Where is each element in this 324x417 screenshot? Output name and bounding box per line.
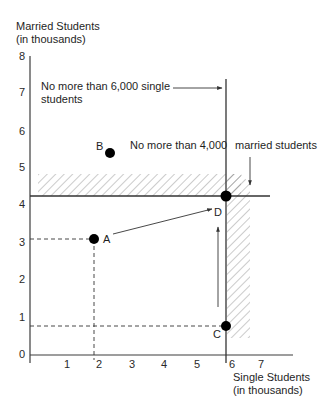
x-axis-subtitle: (in thousands) (233, 384, 303, 396)
x-tick-3: 3 (129, 358, 135, 370)
x-tick-2: 2 (96, 358, 102, 370)
x-tick-4: 4 (161, 358, 167, 370)
point-a (89, 234, 99, 244)
point-c-label: C (213, 328, 221, 340)
y-tick-1: 1 (19, 311, 25, 323)
point-a-label: A (103, 233, 111, 245)
y-tick-7: 7 (19, 86, 25, 98)
single-limit-label-line1: No more than 6,000 single (41, 80, 170, 92)
married-limit-label-part1: No more than 4,000 (130, 139, 227, 151)
y-tick-2: 2 (19, 273, 25, 285)
a-to-d-arrow (113, 209, 212, 234)
x-tick-7: 7 (258, 358, 264, 370)
point-d (221, 191, 232, 202)
y-axis-ticks: 8 7 6 5 4 3 2 1 0 (19, 50, 25, 360)
x-axis-title: Single Students (233, 371, 311, 383)
y-tick-3: 3 (19, 236, 25, 248)
married-limit-hatch (38, 174, 241, 196)
y-axis-subtitle: (in thousands) (16, 33, 86, 45)
single-limit-label-line2: students (41, 93, 83, 105)
y-tick-0: 0 (19, 348, 25, 360)
x-tick-6: 6 (229, 358, 235, 370)
point-c (221, 321, 231, 331)
y-tick-4: 4 (19, 198, 25, 210)
point-b (105, 148, 115, 158)
y-tick-5: 5 (19, 161, 25, 173)
point-b-label: B (96, 140, 103, 152)
y-tick-6: 6 (19, 125, 25, 137)
x-tick-1: 1 (64, 358, 70, 370)
point-d-label: D (214, 206, 222, 218)
x-tick-5: 5 (194, 358, 200, 370)
y-axis-title: Married Students (16, 20, 100, 32)
constraint-chart: B A D C Married Students (in thousands) … (0, 0, 324, 417)
married-limit-label-part2: married students (235, 139, 317, 151)
y-tick-8: 8 (19, 50, 25, 62)
